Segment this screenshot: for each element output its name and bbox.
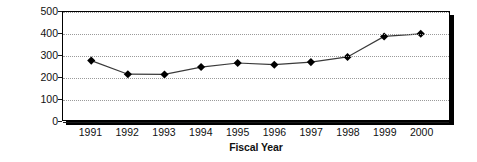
y-axis-tick-mark [58,99,62,100]
x-axis-title: Fiscal Year [62,141,450,153]
x-tick-label: 1992 [116,126,139,139]
plot-inner [63,12,449,120]
gridline [63,78,449,79]
y-tick-label: 500 [28,6,58,17]
data-point-marker [87,57,95,65]
y-tick-label: 100 [28,94,58,105]
y-tick-label: 200 [28,72,58,83]
plot-area [62,11,450,121]
y-axis-tick-mark [58,11,62,12]
x-tick-label: 1996 [263,126,286,139]
x-tick-label: 1993 [152,126,175,139]
gridline [63,34,449,35]
series-line [91,34,420,75]
gridline [63,122,449,123]
y-axis-tick-mark [58,77,62,78]
gridline [63,12,449,13]
y-tick-label: 0 [28,116,58,127]
data-point-marker [270,61,278,69]
x-tick-label: 1991 [79,126,102,139]
line-chart-figure: Dollars (millions) 500 400 300 200 100 0… [0,0,477,162]
x-tick-label: 1995 [226,126,249,139]
y-axis-tick-mark [58,121,62,122]
series-plot [63,12,449,120]
y-axis-tick-mark [58,33,62,34]
x-tick-label: 1994 [189,126,212,139]
x-axis-tick-labels: 1991199219931994199519961997199819992000 [62,126,450,140]
data-point-marker [197,63,205,71]
y-tick-label: 400 [28,28,58,39]
y-axis-tick-labels: 500 400 300 200 100 0 [28,6,58,126]
gridline [63,100,449,101]
data-point-marker [307,58,315,66]
data-point-marker [234,59,242,67]
x-tick-label: 1997 [300,126,323,139]
x-tick-label: 2000 [410,126,433,139]
y-axis-tick-mark [58,55,62,56]
x-tick-label: 1998 [336,126,359,139]
gridline [63,56,449,57]
x-tick-label: 1999 [373,126,396,139]
y-tick-label: 300 [28,50,58,61]
